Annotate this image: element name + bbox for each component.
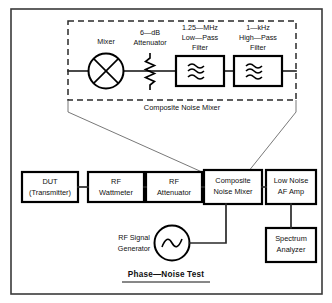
mixer-label: Mixer	[97, 37, 115, 46]
dut-label-line2: (Transmitter)	[29, 188, 71, 197]
spectrum-analyzer-label-line2: Analyzer	[277, 245, 306, 254]
high-pass-filter-label-line2: High—Pass	[239, 33, 277, 42]
low-pass-filter-label-line3: Filter	[192, 43, 209, 52]
low-pass-filter-block	[176, 56, 224, 86]
low-pass-filter-label-line2: Low—Pass	[182, 33, 219, 42]
rf-signal-generator-label-line2: Generator	[118, 244, 151, 253]
composite-noise-mixer-label-line1: Composite	[215, 176, 250, 185]
generator-to-mixer-wire	[190, 204, 227, 243]
rf-attenuator-label-line2: Attenuator	[157, 188, 192, 197]
high-pass-filter-block	[234, 56, 282, 86]
spectrum-analyzer-label-line1: Spectrum	[275, 234, 307, 243]
rf-attenuator-label-line1: RF	[169, 177, 179, 186]
low-noise-af-amp-label-line1: Low Noise	[274, 176, 309, 185]
high-pass-filter-label-line1: 1—kHz	[246, 23, 270, 32]
rf-wattmeter-label-line1: RF	[111, 177, 121, 186]
low-pass-filter-label-line1: 1.25—MHz	[182, 23, 218, 32]
attenuator-label-line1: 6—dB	[140, 28, 160, 37]
composite-noise-mixer-label-line2: Noise Mixer	[213, 187, 253, 196]
mixer-circle-x-icon	[89, 54, 124, 89]
composite-noise-mixer-caption: Composite Noise Mixer	[144, 103, 221, 112]
dut-label-line1: DUT	[42, 177, 58, 186]
rf-signal-generator-label-line1: RF Signal	[118, 233, 150, 242]
attenuator-label-line2: Attenuator	[133, 38, 167, 47]
rf-wattmeter-label-line2: Wattmeter	[99, 188, 133, 197]
diagram-title: Phase—Noise Test	[128, 270, 204, 279]
phase-noise-test-diagram: Mixer 6—dB Attenuator 1.25—MHz Low—Pass …	[0, 0, 332, 303]
high-pass-filter-label-line3: Filter	[250, 43, 267, 52]
sine-source-icon	[155, 226, 190, 261]
low-noise-af-amp-label-line2: AF Amp	[278, 187, 304, 196]
